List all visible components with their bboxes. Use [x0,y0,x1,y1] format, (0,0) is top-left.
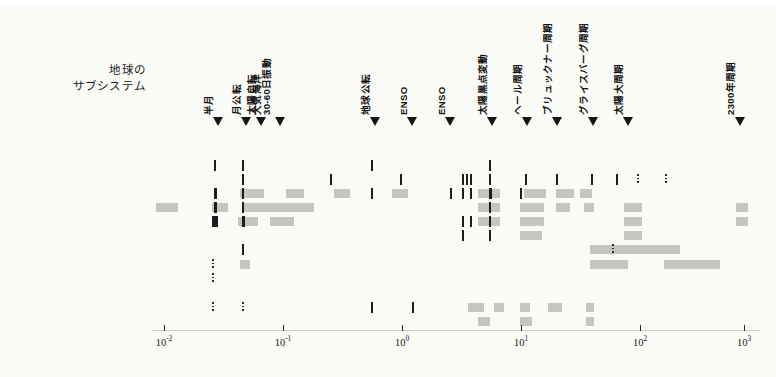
x-axis-tick-label: 10-1 [275,334,292,348]
data-mark [525,174,527,185]
data-mark [489,174,491,185]
annotation-label: 地球公転 [358,74,372,115]
data-mark [242,160,244,171]
data-mark [238,217,258,226]
annotation-arrow-icon [370,117,380,126]
annotation-arrow-icon [552,117,562,126]
annotation-arrow-icon [256,117,266,126]
data-mark [212,216,218,227]
data-mark [214,160,216,171]
data-mark [470,216,472,227]
data-mark [242,302,244,313]
x-axis-tick [402,325,403,331]
annotation-arrow-icon [487,117,497,126]
data-mark [330,174,332,185]
data-mark [580,189,592,198]
data-mark [637,174,639,185]
data-mark [524,189,546,198]
annotation-arrow-icon [623,117,633,126]
annotation-arrow-icon [522,117,532,126]
annotation-label: ブリュックナー周期 [540,22,554,115]
data-mark [548,303,562,312]
data-mark [489,230,491,241]
data-mark [494,303,504,312]
data-mark [156,203,178,212]
data-mark [624,203,642,212]
x-axis-line [152,330,760,331]
data-mark [371,160,373,171]
data-mark [371,302,373,313]
annotation-label: グライスバーグ周期 [576,22,590,115]
data-mark [591,174,593,185]
x-axis-tick [640,325,641,331]
data-mark [371,188,373,199]
data-mark [520,203,544,212]
data-mark [489,202,491,213]
data-mark [242,174,244,185]
data-mark [242,188,244,199]
data-mark [212,273,214,284]
annotation-label-text: 月公転 [231,84,242,115]
data-mark [392,189,408,198]
annotation-label: ENSO [436,87,447,115]
data-mark [214,202,217,213]
data-mark [478,317,490,326]
annotation-arrow-icon [213,117,223,126]
data-mark [242,244,244,255]
annotation-arrow-icon [445,117,455,126]
top-white-edge [0,0,776,5]
annotation-label: 大気海洋30-60日振動 [252,58,271,115]
data-mark [244,203,314,212]
annotation-arrow-icon [735,117,745,126]
annotation-label: 2300年周期 [723,62,737,115]
data-mark [240,260,250,269]
data-mark [556,203,570,212]
data-mark [590,245,680,254]
data-mark [470,174,472,185]
data-mark [212,259,214,270]
annotation-arrow-icon [275,117,285,126]
annotation-label: 太陽大周期 [611,64,625,116]
data-mark [470,188,472,199]
data-mark [466,174,468,185]
annotation-label: 半月 [201,94,215,115]
data-mark [736,203,748,212]
annotation-label-text: 太陽黒点変動 [477,53,488,115]
data-mark [334,189,350,198]
subsystem-title: 地球の サブシステム [0,62,146,94]
annotation-label-text: ヘール周期 [512,64,523,116]
data-mark [489,188,492,199]
data-mark [624,217,642,226]
annotation-label: 太陽黒点変動 [475,53,489,115]
annotation-arrow-icon [241,117,251,126]
annotation-label: ENSO [398,87,409,115]
data-mark [616,174,618,185]
figure-canvas: 地球の サブシステム 半月月公転太陽自転大気海洋30-60日振動地球公転ENSO… [0,0,776,377]
annotation-label-text: ENSO [398,87,409,115]
annotation-label-text: 2300年周期 [725,62,736,115]
data-mark [489,216,491,227]
x-axis-tick [521,325,522,331]
data-mark [586,303,594,312]
annotation-label-text: 太陽大周期 [613,64,624,116]
data-mark [584,203,594,212]
x-axis-tick-label: 10-2 [156,334,173,348]
data-mark [612,244,614,255]
data-mark [242,216,245,227]
data-mark [556,174,558,185]
x-axis-tick-label: 103 [737,334,751,348]
data-mark [664,260,720,269]
data-mark [462,216,464,227]
data-mark [462,188,464,199]
data-mark [489,160,491,171]
data-mark [520,231,542,240]
annotation-label-text: グライスバーグ周期 [578,22,589,115]
x-axis: 10-210-1100101102103 [152,330,760,374]
subsystem-title-line1: 地球の [0,62,146,78]
annotation-arrow-icon [407,117,417,126]
data-mark [736,217,748,226]
data-mark [412,302,414,313]
annotation-label-text-2: 30-60日振動 [262,58,272,115]
annotation-arrow-icon [588,117,598,126]
x-axis-tick [744,325,745,331]
